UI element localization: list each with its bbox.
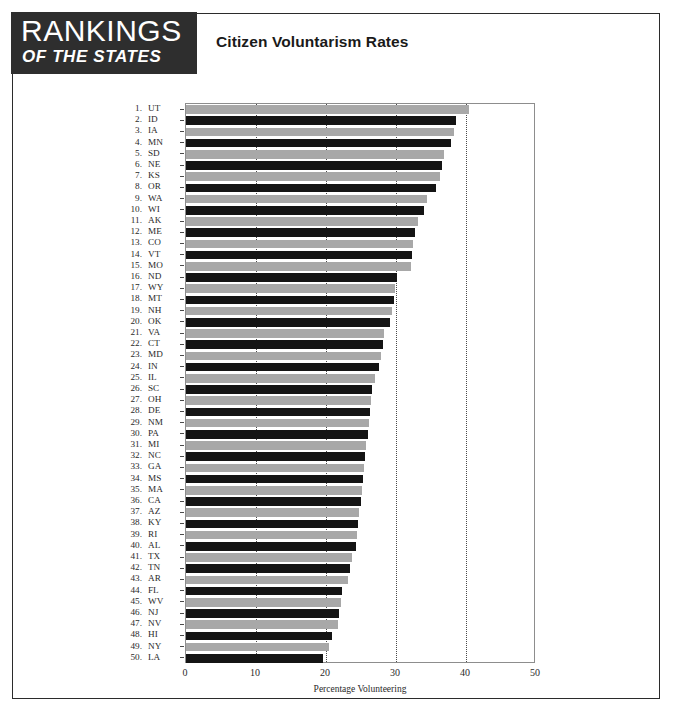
y-label-ND: 16.ND [120,271,176,282]
y-tick [180,512,184,513]
y-tick [180,613,184,614]
bar-RI [186,531,357,540]
bar-fill [186,464,364,473]
y-label-PA: 30.PA [120,428,176,439]
rank-number: 3. [120,125,142,136]
bar-fill [186,441,366,450]
y-label-OH: 27.OH [120,394,176,405]
bar-MT [186,296,394,305]
y-label-WY: 17.WY [120,282,176,293]
y-label-CO: 13.CO [120,237,176,248]
rank-number: 10. [120,204,142,215]
bar-WI [186,206,424,215]
y-label-NH: 19.NH [120,305,176,316]
y-tick [180,389,184,390]
bar-fill [186,105,469,114]
y-tick [180,310,184,311]
y-tick [180,545,184,546]
bar-WY [186,284,395,293]
rank-number: 6. [120,159,142,170]
y-label-TX: 41.TX [120,551,176,562]
y-label-HI: 48.HI [120,629,176,640]
rank-number: 27. [120,394,142,405]
y-tick [180,489,184,490]
y-label-RI: 39.RI [120,529,176,540]
bar-fill [186,553,352,562]
bar-ID [186,116,456,125]
bar-NY [186,643,329,652]
bar-OK [186,318,390,327]
y-label-FL: 44.FL [120,585,176,596]
bar-VT [186,251,412,260]
bar-WA [186,195,427,204]
state-abbr: NY [142,641,176,652]
y-tick [180,243,184,244]
y-label-NY: 49.NY [120,641,176,652]
bar-SC [186,385,372,394]
bar-fill [186,609,339,618]
bar-fill [186,486,362,495]
bar-fill [186,520,358,529]
rank-number: 24. [120,361,142,372]
bar-NC [186,452,365,461]
y-label-TN: 42.TN [120,562,176,573]
bar-ME [186,228,415,237]
y-tick [180,646,184,647]
rank-number: 5. [120,148,142,159]
bar-DE [186,408,370,417]
x-tick-label-0: 0 [170,667,200,678]
y-tick [180,109,184,110]
state-abbr: NH [142,305,176,316]
state-abbr: HI [142,629,176,640]
state-abbr: WI [142,204,176,215]
bar-fill [186,128,454,137]
bar-fill [186,542,356,551]
bar-fill [186,296,394,305]
state-abbr: MT [142,293,176,304]
y-tick [180,445,184,446]
state-abbr: IN [142,361,176,372]
state-abbr: SD [142,148,176,159]
bar-fill [186,632,332,641]
rankings-masthead: RANKINGS OF THE STATES [11,12,197,74]
y-label-NM: 29.NM [120,417,176,428]
bar-fill [186,419,369,428]
bar-KS [186,172,440,181]
state-abbr: CO [142,237,176,248]
y-label-NE: 6.NE [120,159,176,170]
y-tick [180,579,184,580]
x-axis-title: Percentage Volunteering [185,684,535,694]
y-tick [180,523,184,524]
bar-fill [186,150,444,159]
rank-number: 26. [120,383,142,394]
bar-fill [186,497,361,506]
y-tick [180,355,184,356]
state-abbr: NC [142,450,176,461]
rank-number: 35. [120,484,142,495]
y-tick [180,601,184,602]
rank-number: 21. [120,327,142,338]
y-tick [180,165,184,166]
bar-NE [186,161,442,170]
state-abbr: KS [142,170,176,181]
bar-NM [186,419,369,428]
y-tick [180,400,184,401]
rank-number: 28. [120,405,142,416]
bar-fill [186,184,436,193]
x-tick-label-30: 30 [380,667,410,678]
bar-fill [186,195,427,204]
y-tick [180,590,184,591]
rank-number: 2. [120,114,142,125]
y-label-MT: 18.MT [120,293,176,304]
y-label-OK: 20.OK [120,316,176,327]
y-tick [180,344,184,345]
y-label-IL: 25.IL [120,372,176,383]
rank-number: 42. [120,562,142,573]
state-abbr: UT [142,103,176,114]
rank-number: 23. [120,349,142,360]
rank-number: 1. [120,103,142,114]
rank-number: 39. [120,529,142,540]
y-label-AL: 40.AL [120,540,176,551]
bar-FL [186,587,342,596]
state-abbr: MD [142,349,176,360]
